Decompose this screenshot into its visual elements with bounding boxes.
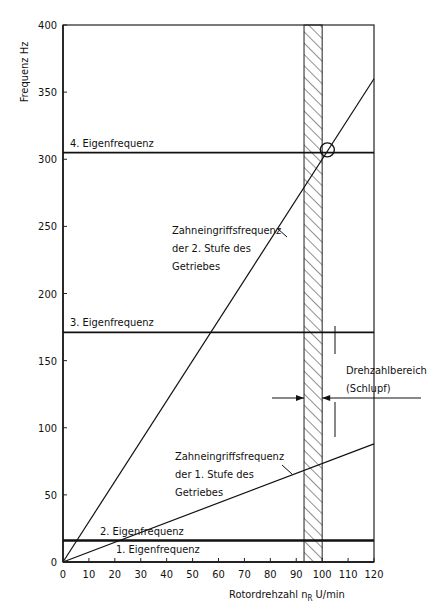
arrowhead-left bbox=[296, 395, 304, 401]
arrowhead-right bbox=[322, 395, 330, 401]
label-eig3: 3. Eigenfrequenz bbox=[70, 316, 154, 329]
x-tick-label: 0 bbox=[60, 568, 66, 581]
label-stage1: Getriebes bbox=[175, 486, 223, 499]
y-tick-label: 150 bbox=[38, 355, 57, 368]
hatched-band bbox=[304, 25, 322, 562]
y-tick-label: 200 bbox=[38, 288, 57, 301]
label-band: (Schlupf) bbox=[346, 382, 391, 395]
label-stage2: Getriebes bbox=[172, 260, 220, 273]
label-stage1: Zahneingriffsfrequenz bbox=[175, 450, 284, 463]
label-stage2: Zahneingriffsfrequenz bbox=[172, 224, 281, 237]
y-tick-label: 350 bbox=[38, 86, 57, 99]
axes bbox=[63, 25, 374, 562]
plot-frame bbox=[63, 25, 374, 562]
y-tick-label: 300 bbox=[38, 153, 57, 166]
label-stage2: der 2. Stufe des bbox=[172, 242, 251, 255]
x-tick-label: 90 bbox=[290, 568, 303, 581]
x-tick-label: 110 bbox=[339, 568, 358, 581]
x-tick-label: 70 bbox=[238, 568, 251, 581]
label-eig2: 2. Eigenfrequenz bbox=[100, 525, 184, 538]
x-tick-label: 80 bbox=[264, 568, 277, 581]
y-tick-label: 50 bbox=[44, 489, 57, 502]
x-tick-label: 60 bbox=[212, 568, 225, 581]
label-band: Drehzahlbereich bbox=[346, 364, 427, 377]
y-axis-label: Frequenz Hz bbox=[18, 42, 31, 103]
y-tick-label: 400 bbox=[38, 19, 57, 32]
leader-stage1 bbox=[282, 465, 292, 474]
frequency-chart: 0102030405060708090100110120050100150200… bbox=[0, 0, 440, 616]
x-tick-label: 30 bbox=[134, 568, 147, 581]
y-tick-label: 100 bbox=[38, 422, 57, 435]
x-tick-label: 120 bbox=[365, 568, 384, 581]
y-tick-label: 250 bbox=[38, 220, 57, 233]
x-axis-label: Rotordrehzahl nR U/min bbox=[229, 588, 345, 603]
y-tick-label: 0 bbox=[51, 556, 57, 569]
label-stage1: der 1. Stufe des bbox=[175, 468, 254, 481]
x-tick-label: 100 bbox=[313, 568, 332, 581]
x-tick-label: 50 bbox=[186, 568, 199, 581]
label-eig4: 4. Eigenfrequenz bbox=[70, 137, 154, 150]
x-tick-label: 10 bbox=[83, 568, 96, 581]
x-tick-label: 20 bbox=[109, 568, 122, 581]
annotations: 4. Eigenfrequenz3. Eigenfrequenz2. Eigen… bbox=[18, 42, 427, 603]
label-eig1: 1. Eigenfrequenz bbox=[116, 543, 200, 556]
speed-range-band bbox=[304, 25, 322, 562]
x-tick-label: 40 bbox=[160, 568, 173, 581]
